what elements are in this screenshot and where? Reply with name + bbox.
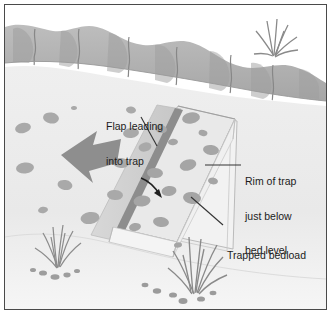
figure-frame: Flap leading into trap Rim of trap just … <box>4 4 327 310</box>
label-flap-line2: into trap <box>106 156 163 168</box>
label-flap-line1: Flap leading <box>106 121 163 133</box>
label-rim-line2: just below <box>245 211 296 223</box>
label-trapped-bedload: Trapped bedload <box>227 227 306 285</box>
label-rim-line1: Rim of trap <box>245 176 296 188</box>
label-bedload-line1: Trapped bedload <box>227 250 306 262</box>
label-flap-leading-into-trap: Flap leading into trap <box>106 98 163 190</box>
figure-container: Flap leading into trap Rim of trap just … <box>0 0 331 314</box>
